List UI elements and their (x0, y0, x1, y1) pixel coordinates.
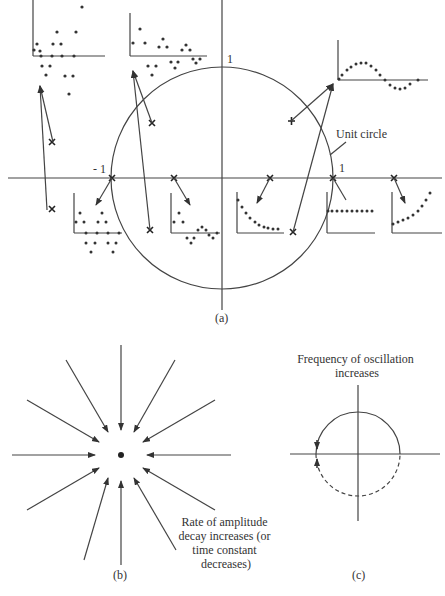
response-plot-growing-exponential (392, 192, 443, 234)
response-plot-growing-alternating (32, 0, 105, 96)
response-plot-decaying-exponential (237, 192, 285, 233)
amplitude-decay-annotation: Rate of amplitude decay increases (or ti… (179, 515, 274, 571)
caption-a: (a) (215, 311, 228, 325)
unit-circle-leader (330, 142, 346, 155)
tick-label-one-right: 1 (339, 161, 345, 175)
caption-b: (b) (113, 568, 127, 582)
response-plot-decaying-alternating (130, 13, 207, 77)
caption-c: (c) (352, 568, 365, 582)
pole-x-icon (49, 206, 55, 212)
pole-leader-line (333, 178, 346, 200)
unit-circle-label: Unit circle (336, 127, 387, 141)
panel-a: 1 - 1 1 Unit circle (8, 0, 442, 325)
panel-c: Frequency of oscillation increases (c) (290, 352, 440, 582)
frequency-annotation: Frequency of oscillation increases (297, 352, 417, 380)
pole-location-figure: 1 - 1 1 Unit circle (0, 0, 445, 596)
tick-label-one-top: 1 (227, 52, 233, 66)
panel-b: Rate of amplitude decay increases (or ti… (12, 345, 273, 582)
tick-label-minus-one: - 1 (93, 162, 106, 176)
response-plot-damped-oscillation (171, 193, 220, 245)
response-plot-constant (327, 192, 376, 233)
origin-dot (118, 452, 124, 458)
response-plot-sustained-oscillation (338, 40, 429, 91)
